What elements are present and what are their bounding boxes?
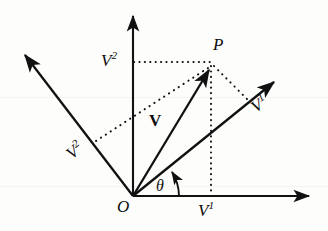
- label-component-v2-sup: 2: [111, 49, 117, 61]
- label-component-v1-base: V: [198, 201, 208, 220]
- label-origin-o: O: [117, 198, 129, 215]
- label-theta: θ: [156, 178, 164, 194]
- dotted-parallel-to-v2: [214, 66, 247, 99]
- label-point-p: P: [213, 36, 223, 53]
- label-component-v2: V2: [101, 50, 117, 69]
- theta-arc: [172, 172, 179, 196]
- basis-vector-v2-arrow: [25, 55, 133, 196]
- vector-diagram-figure: V2 P V1 O V θ V1 V2: [0, 0, 328, 231]
- vector-v-arrow: [133, 70, 209, 196]
- diagram-canvas: [0, 0, 328, 231]
- label-component-v1-sup: 1: [208, 199, 214, 211]
- label-component-v2-base: V: [101, 51, 111, 70]
- dotted-parallel-to-v1: [96, 68, 208, 141]
- label-vector-v: V: [149, 112, 161, 129]
- label-component-v1: V1: [198, 200, 214, 219]
